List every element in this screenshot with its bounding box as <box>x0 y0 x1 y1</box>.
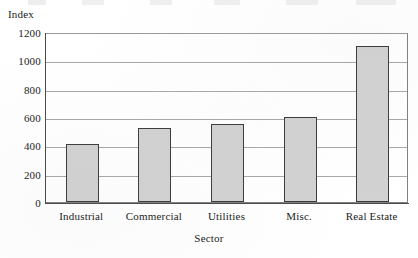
bar-misc <box>284 117 317 202</box>
y-axis-tick-label: 1200 <box>1 28 41 39</box>
scan-artifact <box>0 0 418 5</box>
bar-chart-figure: Index 120010008006004002000 Sector Indus… <box>0 0 418 258</box>
plot-area <box>45 33 408 203</box>
y-axis-tick-label: 0 <box>1 198 41 209</box>
bar-commercial <box>138 128 171 202</box>
x-axis-line <box>45 203 409 204</box>
bar-utilities <box>211 124 244 202</box>
y-axis-tick-label: 600 <box>1 113 41 124</box>
x-axis-category-label: Utilities <box>208 210 245 223</box>
gridline <box>46 62 407 63</box>
x-axis-title: Sector <box>0 232 418 245</box>
x-axis-category-label: Misc. <box>286 210 312 223</box>
bar-industrial <box>66 144 99 202</box>
bar-real-estate <box>356 46 389 202</box>
y-axis-line <box>45 33 46 204</box>
y-axis-tick-label: 1000 <box>1 56 41 67</box>
gridline <box>46 91 407 92</box>
x-axis-category-label: Real Estate <box>346 210 398 223</box>
x-axis-category-label: Commercial <box>126 210 182 223</box>
y-axis-tick-label: 800 <box>1 85 41 96</box>
x-axis-category-label: Industrial <box>59 210 103 223</box>
y-axis-tick-label: 200 <box>1 170 41 181</box>
y-axis-tick-label: 400 <box>1 141 41 152</box>
gridline <box>46 119 407 120</box>
y-axis-tick-labels: 120010008006004002000 <box>0 0 41 258</box>
